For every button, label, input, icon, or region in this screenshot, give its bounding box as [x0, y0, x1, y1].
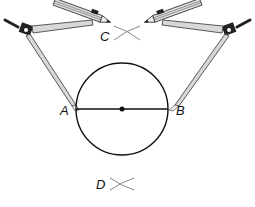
left-compass [5, 0, 113, 111]
label-c: C [100, 30, 109, 43]
construction-diagram [0, 0, 255, 207]
label-d: D [96, 178, 105, 191]
right-compass [142, 0, 250, 111]
center-point [120, 107, 125, 112]
arc-c-2 [114, 26, 140, 40]
label-a: A [60, 104, 69, 117]
label-b: B [176, 104, 185, 117]
arc-c-1 [114, 26, 140, 40]
